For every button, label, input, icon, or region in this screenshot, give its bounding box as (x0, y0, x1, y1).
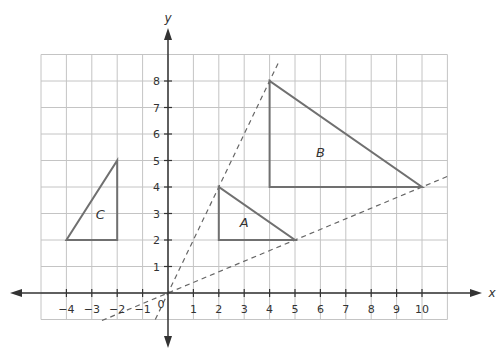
x-axis-left-arrow-icon (10, 289, 22, 297)
y-axis-up-arrow-icon (164, 28, 172, 40)
y-tick-label: 5 (153, 155, 160, 168)
y-axis-down-arrow-icon (164, 336, 172, 348)
coordinate-plane: ABC −4−3−2−112345678910123456780xy (0, 0, 500, 360)
axis-labels: −4−3−2−112345678910123456780xy (58, 11, 496, 316)
x-tick-label: −4 (58, 303, 74, 316)
x-tick-label: 9 (393, 303, 400, 316)
coordinate-plane-diagram: ABC −4−3−2−112345678910123456780xy (0, 0, 500, 360)
x-tick-label: −1 (134, 303, 150, 316)
x-tick-label: 4 (266, 303, 273, 316)
x-tick-label: 1 (190, 303, 197, 316)
x-tick-label: 5 (292, 303, 299, 316)
x-tick-label: 7 (342, 303, 349, 316)
y-axis-label: y (163, 11, 172, 25)
triangle-label-a: A (239, 215, 249, 230)
y-tick-label: 1 (153, 261, 160, 274)
x-tick-label: −3 (84, 303, 100, 316)
triangle-label-b: B (316, 145, 325, 160)
x-tick-label: −2 (109, 303, 125, 316)
line-through-origin-shallow (102, 176, 447, 320)
x-tick-label: 6 (317, 303, 324, 316)
y-tick-label: 3 (153, 208, 160, 221)
x-axis-right-arrow-icon (470, 289, 482, 297)
y-tick-label: 2 (153, 234, 160, 247)
y-tick-label: 4 (153, 181, 160, 194)
x-axis-label: x (487, 286, 496, 300)
x-tick-label: 3 (241, 303, 248, 316)
line-through-origin-steep (155, 62, 278, 319)
x-tick-label: 10 (415, 303, 429, 316)
triangle-label-c: C (96, 207, 106, 222)
y-tick-label: 7 (153, 102, 160, 115)
y-tick-label: 8 (153, 75, 160, 88)
origin-label: 0 (158, 298, 165, 311)
x-tick-label: 8 (368, 303, 375, 316)
x-tick-label: 2 (215, 303, 222, 316)
y-tick-label: 6 (153, 128, 160, 141)
